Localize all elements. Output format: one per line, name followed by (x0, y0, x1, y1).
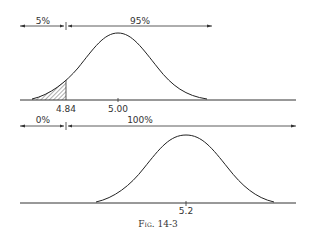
top-left-percent-label: 5% (36, 16, 50, 26)
top-right-percent-label: 95% (130, 16, 150, 26)
critical-value-label: 4.84 (56, 104, 76, 114)
top-mean-label: 5.00 (108, 104, 128, 114)
top-panel (20, 22, 296, 102)
bottom-mean-label: 5.2 (179, 206, 193, 216)
bottom-left-percent-label: 0% (36, 115, 50, 125)
figure-caption: Fig. 14-3 (138, 219, 177, 229)
bottom-panel (20, 122, 296, 206)
bottom-right-percent-label: 100% (127, 115, 153, 125)
